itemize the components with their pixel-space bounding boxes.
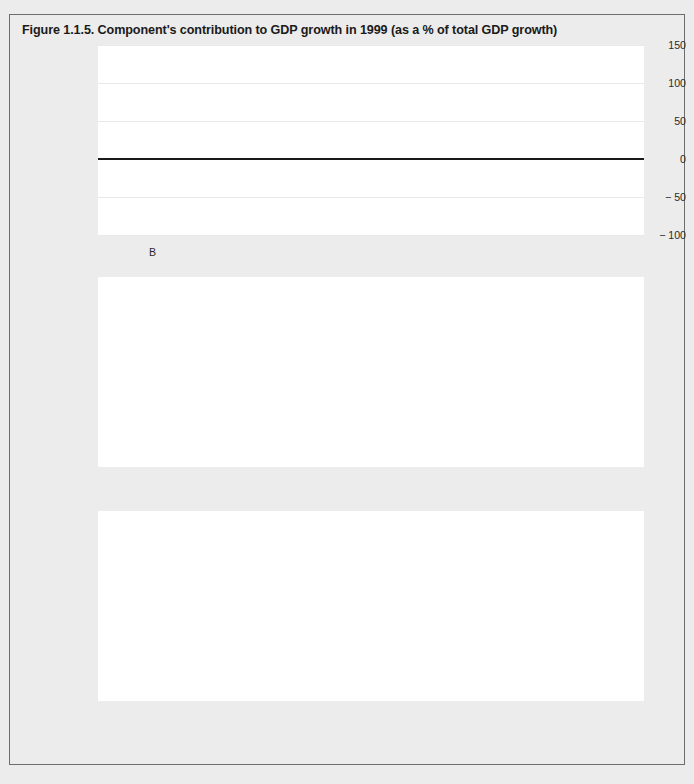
y-gridline <box>98 235 644 236</box>
y-axis-tick-label: 0 <box>602 153 686 165</box>
figure-caption <box>10 770 430 782</box>
y-axis-tick-label: − 50 <box>602 191 686 203</box>
figure-title: Figure 1.1.5. Component's contribution t… <box>22 23 557 37</box>
y-axis-tick-label: 150 <box>602 39 686 51</box>
chart-panel-3 <box>10 511 686 726</box>
chart-panel-1: 150100500− 50− 100B <box>10 45 686 260</box>
plot-area-1 <box>98 45 644 235</box>
zero-axis-line <box>98 158 644 160</box>
y-axis-tick-label: − 100 <box>602 229 686 241</box>
plot-area-2 <box>98 277 644 467</box>
chart-panel-2 <box>10 277 686 492</box>
figure-box: Figure 1.1.5. Component's contribution t… <box>9 14 685 765</box>
y-gridline <box>98 83 644 84</box>
figure-root: Figure 1.1.5. Component's contribution t… <box>0 0 694 784</box>
y-gridline <box>98 197 644 198</box>
y-gridline <box>98 45 644 46</box>
plot-area-3 <box>98 511 644 701</box>
x-axis-tick-label: B <box>149 246 156 258</box>
y-gridline <box>98 121 644 122</box>
y-axis-tick-label: 100 <box>602 77 686 89</box>
y-axis-tick-label: 50 <box>602 115 686 127</box>
